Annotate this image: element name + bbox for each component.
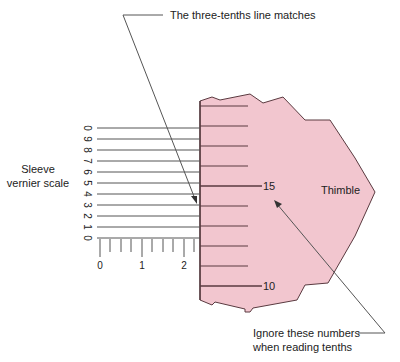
sleeve-label-line2: vernier scale (7, 177, 69, 189)
thimble-body (200, 94, 375, 312)
arrow-head-icon (191, 196, 197, 204)
svg-text:3: 3 (82, 202, 93, 208)
sleeve-main-scale (100, 239, 194, 257)
svg-text:7: 7 (82, 158, 93, 164)
svg-text:0: 0 (82, 125, 93, 131)
sleeve-main-numbers: 0 1 2 (97, 260, 187, 271)
bottom-callout-line1: Ignore these numbers (253, 327, 361, 339)
bottom-callout-line2: when reading tenths (252, 341, 353, 353)
svg-text:6: 6 (82, 169, 93, 175)
sleeve-vernier-numbers: 0 9 8 7 6 5 4 3 2 1 0 (82, 125, 93, 241)
svg-text:2: 2 (181, 260, 187, 271)
thimble-label: Thimble (321, 184, 360, 196)
svg-text:0: 0 (97, 260, 103, 271)
svg-text:0: 0 (82, 235, 93, 241)
thimble-number-15: 15 (263, 180, 275, 192)
sleeve-vernier-lines (97, 128, 200, 238)
top-callout-text: The three-tenths line matches (170, 9, 316, 21)
svg-text:8: 8 (82, 147, 93, 153)
svg-text:2: 2 (82, 213, 93, 219)
svg-text:5: 5 (82, 180, 93, 186)
svg-text:4: 4 (82, 191, 93, 197)
svg-text:1: 1 (82, 224, 93, 230)
sleeve-label-line1: Sleeve (21, 163, 55, 175)
svg-text:9: 9 (82, 136, 93, 142)
thimble-number-10: 10 (263, 280, 275, 292)
micrometer-diagram: 15 10 Thimble 0 9 8 7 6 5 4 3 (0, 0, 400, 362)
svg-text:1: 1 (139, 260, 145, 271)
thimble: 15 10 Thimble (200, 94, 375, 312)
